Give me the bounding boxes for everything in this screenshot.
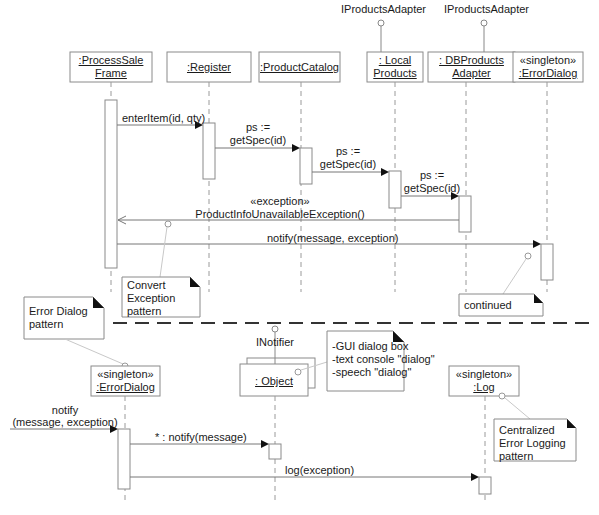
lifeline-label-db-line2: Adapter xyxy=(428,67,515,80)
note-text-convert-1: Convert xyxy=(127,278,166,292)
message-label-enteritem: enterItem(id, qty) xyxy=(122,112,205,125)
activation-productcatalog xyxy=(300,148,312,184)
activation-object xyxy=(269,444,281,459)
message-label-getspec2-b: getSpec(id) xyxy=(318,158,378,171)
note-text-convert-2: Exception xyxy=(127,291,175,305)
note-text-continued: continued xyxy=(464,298,512,312)
activation-register xyxy=(203,123,215,179)
note-text-convert-3: pattern xyxy=(127,304,161,318)
lifeline-label-db-line1: : DBProducts xyxy=(428,54,515,67)
note-text-variant-3: -speech "dialog" xyxy=(332,365,411,379)
interface-label-db: IProductsAdapter xyxy=(444,3,524,16)
message-label-getspec1-a: ps := xyxy=(228,121,288,134)
lifeline-label-errordialog-lower: :ErrorDialog xyxy=(91,381,160,394)
note-text-variant-2: -text console "dialog" xyxy=(332,352,435,366)
note-text-centralized-2: Error Logging xyxy=(499,436,566,450)
note-text-centralized-3: pattern xyxy=(499,449,533,463)
lifeline-label-local-line2: Products xyxy=(367,67,423,80)
interface-label-local: IProductsAdapter xyxy=(341,3,421,16)
message-label-exception-stereotype: «exception» xyxy=(180,195,380,208)
note-anchor-errordialog xyxy=(65,339,128,369)
interface-label-inotifier: INotifier xyxy=(245,336,305,349)
interface-lollipop-db xyxy=(481,20,487,52)
interface-lollipop-local xyxy=(378,20,384,52)
lifeline-label-object: : Object xyxy=(240,375,308,388)
activation-errordialog xyxy=(541,244,553,280)
lifeline-label-processsale-line1: :ProcessSale xyxy=(70,54,152,67)
activation-processsaleframe xyxy=(105,100,117,268)
message-label-notify: notify(message, exception) xyxy=(267,232,398,245)
message-label-found-notify-b: (message, exception) xyxy=(10,416,120,429)
activation-localproducts xyxy=(389,171,401,208)
message-label-exception: ProductInfoUnavailableException() xyxy=(180,208,380,221)
note-text-errordialog-1: Error Dialog xyxy=(29,304,88,318)
message-label-getspec1-b: getSpec(id) xyxy=(228,134,288,147)
stereotype-label-errordialog: «singleton» xyxy=(513,54,583,67)
lifeline-label-errordialog: :ErrorDialog xyxy=(513,67,583,80)
message-label-notify-message: * : notify(message) xyxy=(155,431,247,444)
lifeline-label-local-line1: : Local xyxy=(367,54,423,67)
lifeline-label-log: :Log xyxy=(449,381,519,394)
lifeline-label-productcatalog: :ProductCatalog xyxy=(259,61,340,74)
stereotype-label-errordialog-lower: «singleton» xyxy=(91,368,160,381)
message-label-getspec3-b: getSpec(id) xyxy=(402,182,462,195)
message-label-getspec2-a: ps := xyxy=(318,145,378,158)
lifeline-label-processsale-line2: Frame xyxy=(70,67,152,80)
stereotype-label-log: «singleton» xyxy=(449,368,519,381)
note-anchor-convert xyxy=(160,221,171,277)
note-text-centralized-1: Centralized xyxy=(499,423,555,437)
activation-dbproductsadapter xyxy=(459,196,471,232)
note-anchor-centralized xyxy=(499,393,530,419)
lifeline-label-register: :Register xyxy=(167,61,251,74)
activation-errordialog-lower xyxy=(118,429,130,489)
note-text-variant-1: -GUI dialog box xyxy=(332,339,408,353)
activation-log xyxy=(479,477,491,494)
message-label-log-exception: log(exception) xyxy=(285,464,354,477)
message-label-getspec3-a: ps := xyxy=(402,169,462,182)
note-text-errordialog-2: pattern xyxy=(29,317,63,331)
note-anchor-continued xyxy=(503,253,531,294)
